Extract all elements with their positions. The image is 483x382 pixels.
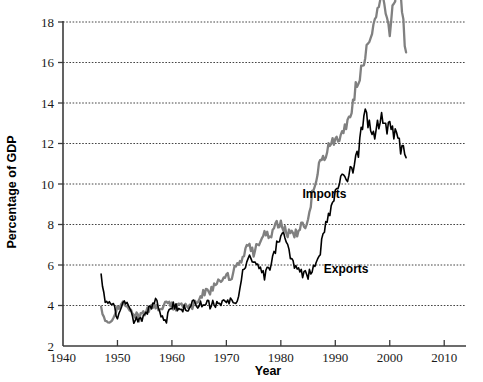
x-tick-label-2000: 2000 [377,350,403,365]
y-tick-label-6: 6 [48,258,55,273]
x-tick-label-2010: 2010 [431,350,457,365]
x-axis-title: Year [255,364,282,378]
y-tick-label-18: 18 [41,15,54,30]
y-axis-title: Percentage of GDP [5,135,19,248]
y-tick-label-12: 12 [41,136,54,151]
x-tick-label-1940: 1940 [50,350,76,365]
x-tick-label-1950: 1950 [104,350,130,365]
series-line-exports [101,109,406,323]
line-chart: 24681012141618 1940195019601970198019902… [0,0,483,382]
chart-container: 24681012141618 1940195019601970198019902… [0,0,483,382]
y-tick-label-8: 8 [48,217,55,232]
series-label-exports: Exports [324,262,369,276]
grid-lines [63,22,466,306]
y-tick-label-10: 10 [41,177,54,192]
x-tick-label-1960: 1960 [159,350,185,365]
x-tick-label-1970: 1970 [213,350,239,365]
x-tick-label-1980: 1980 [268,350,294,365]
x-tick-label-1990: 1990 [322,350,348,365]
y-tick-label-14: 14 [41,96,55,111]
y-tick-label-4: 4 [48,298,55,313]
series-annotations: ImportsExports [302,187,368,276]
x-axis-tick-labels: 19401950196019701980199020002010 [50,350,457,365]
y-tick-label-16: 16 [41,55,55,70]
y-axis-tick-labels: 24681012141618 [41,15,55,354]
series-label-imports: Imports [302,187,346,201]
